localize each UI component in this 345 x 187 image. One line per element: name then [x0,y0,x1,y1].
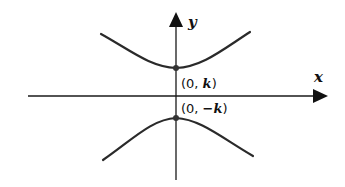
x-axis: x [28,68,328,103]
hyperbola-diagram: x y (0, k) (0, −k) [0,0,345,187]
y-axis-label: y [187,13,198,31]
x-axis-label: x [313,68,324,86]
upper-vertex-label: (0, k) [181,76,217,91]
lower-vertex-point [173,115,179,121]
hyperbola-lower-branch [103,118,253,160]
upper-vertex-point [173,65,179,71]
x-axis-arrow-icon [313,89,328,103]
y-axis-arrow-icon [169,12,183,27]
lower-vertex-label: (0, −k) [181,101,228,116]
